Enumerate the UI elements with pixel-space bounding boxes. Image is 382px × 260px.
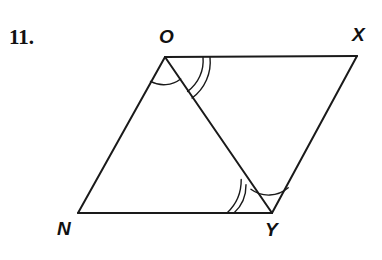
angle-mark-YOX <box>188 57 211 98</box>
angle-mark-NOY <box>151 79 181 85</box>
angle-arc-YOX-1 <box>188 57 204 91</box>
side-OX <box>165 56 357 57</box>
vertex-label-N: N <box>57 219 71 238</box>
angle-arc-YOX-2 <box>192 57 210 98</box>
diagonal-OY <box>165 57 272 213</box>
vertex-label-X: X <box>352 25 365 44</box>
vertex-label-Y: Y <box>265 220 278 239</box>
vertex-label-O: O <box>159 27 174 46</box>
angle-arc-NOY-1 <box>151 79 181 85</box>
side-NO <box>78 57 165 213</box>
side-XY <box>272 56 357 213</box>
angle-mark-NYO <box>227 180 246 214</box>
problem-figure-page: 11. O X N Y <box>0 0 382 260</box>
figure-diagonal <box>165 57 272 213</box>
